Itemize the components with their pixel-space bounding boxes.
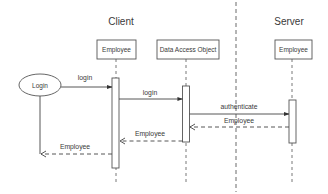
message-login-1-label: login (78, 74, 93, 82)
message-return-dao-label: Employee (135, 130, 165, 138)
server-employee-label: Employee (279, 46, 308, 54)
server-employee-activation (289, 100, 296, 143)
dao-object[interactable]: Data Access Object (157, 40, 219, 59)
server-section-label: Server (274, 16, 304, 27)
login-actor[interactable]: Login (19, 74, 61, 96)
client-employee-activation (112, 78, 119, 168)
client-employee-object[interactable]: Employee (97, 40, 136, 59)
dao-activation (183, 86, 190, 142)
client-employee-label: Employee (102, 46, 131, 54)
server-employee-object[interactable]: Employee (275, 40, 312, 59)
message-login-2-label: login (143, 89, 158, 97)
message-return-client-label: Employee (60, 143, 90, 151)
dao-label: Data Access Object (160, 46, 217, 54)
message-authenticate-label: authenticate (220, 103, 257, 110)
message-return-server-label: Employee (224, 117, 254, 125)
client-section-label: Client (108, 16, 134, 27)
login-actor-label: Login (32, 82, 48, 90)
sequence-diagram: Client Server Employee Data Access Objec… (0, 0, 328, 194)
